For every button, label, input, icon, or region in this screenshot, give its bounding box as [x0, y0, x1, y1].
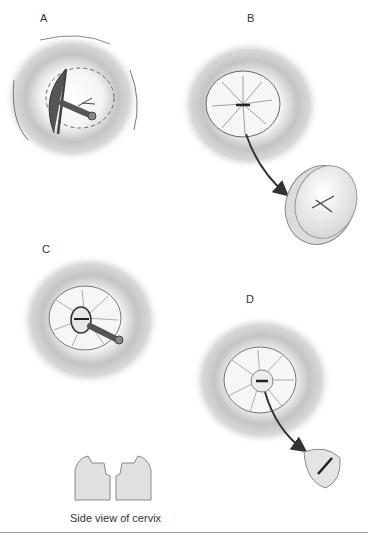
- cone-biopsy-illustration: [0, 0, 368, 538]
- panel-d: [192, 315, 340, 488]
- panel-c: [20, 254, 160, 386]
- bottom-divider: [0, 532, 368, 533]
- panel-a: [4, 34, 140, 162]
- panel-label-a: A: [40, 12, 47, 24]
- side-view-of-cervix: [75, 456, 151, 500]
- panel-b: [180, 40, 367, 254]
- panel-label-b: B: [247, 12, 254, 24]
- panel-label-d: D: [246, 293, 254, 305]
- panel-label-c: C: [42, 243, 50, 255]
- figure-caption: Side view of cervix: [70, 512, 161, 524]
